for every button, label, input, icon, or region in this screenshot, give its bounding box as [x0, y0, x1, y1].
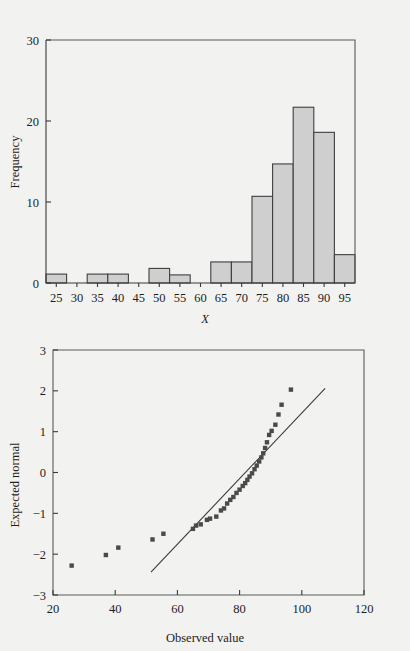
qq-data-point	[276, 412, 280, 416]
qq-data-point	[255, 463, 259, 467]
qq-data-point	[150, 537, 154, 541]
qq-data-point	[208, 516, 212, 520]
qq-y-tick-label: 0	[40, 466, 46, 480]
histogram-bar	[231, 262, 252, 283]
qq-y-tick-label: −3	[33, 589, 46, 603]
histogram-x-tick-label: 25	[50, 291, 63, 305]
qq-data-point	[289, 387, 293, 391]
qq-y-tick-label: −1	[33, 507, 46, 521]
qq-data-point	[104, 553, 108, 557]
qq-data-point	[116, 545, 120, 549]
qq-data-point	[161, 532, 165, 536]
qq-data-point	[263, 446, 267, 450]
histogram-y-tick-label: 0	[33, 277, 39, 291]
histogram-bar	[334, 255, 355, 283]
qq-data-point	[214, 514, 218, 518]
histogram-bar	[314, 132, 335, 283]
histogram-x-tick-label: 35	[91, 291, 104, 305]
histogram-x-tick-label: 40	[112, 291, 125, 305]
histogram-bar	[293, 107, 314, 283]
histogram-x-tick-label: 85	[297, 291, 310, 305]
qq-x-tick-label: 40	[109, 602, 122, 616]
qq-data-point	[259, 455, 263, 459]
histogram-bar	[108, 274, 129, 283]
qq-data-point	[257, 459, 261, 463]
histogram-y-axis-title: Frequency	[8, 135, 22, 189]
qq-x-tick-label: 100	[292, 602, 311, 616]
qq-reference-line-segment	[151, 388, 325, 572]
histogram-x-tick-label: 30	[71, 291, 84, 305]
histogram-x-tick-label: 95	[338, 291, 351, 305]
histogram-x-tick-label: 50	[153, 291, 166, 305]
qq-data-point	[231, 495, 235, 499]
histogram-bar	[46, 274, 67, 283]
qq-y-tick-label: −2	[33, 548, 46, 562]
histogram-bar	[170, 275, 191, 283]
qq-data-point	[269, 429, 273, 433]
histogram-bar	[87, 274, 108, 283]
histogram-x-tick-label: 55	[174, 291, 187, 305]
qq-y-tick-label: 2	[40, 384, 46, 398]
qq-reference-line	[151, 388, 325, 572]
qq-x-tick-label: 20	[47, 602, 60, 616]
qq-x-tick-label: 120	[355, 602, 374, 616]
qq-data-point	[273, 423, 277, 427]
qq-data-point	[267, 433, 271, 437]
qq-data-point	[261, 451, 265, 455]
qq-y-axis-title: Expected normal	[8, 442, 22, 528]
histogram-y-tick-label: 10	[27, 196, 40, 210]
histogram-x-tick-label: 75	[256, 291, 269, 305]
qq-x-tick-label: 80	[233, 602, 246, 616]
qq-data-point	[250, 471, 254, 475]
qq-data-point	[279, 403, 283, 407]
histogram-x-tick-label: 45	[132, 291, 145, 305]
histogram-y-tick-label: 20	[27, 115, 40, 129]
histogram-x-tick-label: 65	[215, 291, 228, 305]
qq-plot-axes	[53, 350, 364, 595]
qq-y-tick-label: 1	[40, 425, 46, 439]
histogram-bars	[46, 107, 355, 283]
qq-data-point	[222, 506, 226, 510]
qq-x-axis-title: Observed value	[166, 631, 245, 645]
figure-page: 2530354045505560657075808590950102030 X …	[0, 0, 410, 651]
qq-tick-labels: 20406080100120−3−2−10123	[33, 344, 374, 617]
histogram-x-tick-label: 70	[235, 291, 248, 305]
qq-plot-svg: 20406080100120−3−2−10123 Observed value …	[0, 330, 410, 651]
histogram-x-tick-label: 60	[194, 291, 207, 305]
histogram-bar	[273, 164, 294, 283]
histogram-bar	[149, 268, 170, 283]
qq-plot-frame	[53, 350, 364, 595]
qq-data-point	[265, 440, 269, 444]
qq-data-point	[69, 563, 73, 567]
histogram-bar	[211, 262, 232, 283]
qq-x-tick-label: 60	[171, 602, 184, 616]
histogram-y-tick-label: 30	[27, 34, 40, 48]
qq-data-point	[199, 522, 203, 526]
histogram-x-tick-label: 90	[318, 291, 331, 305]
histogram-svg: 2530354045505560657075808590950102030 X …	[0, 0, 410, 330]
histogram-x-tick-label: 80	[277, 291, 290, 305]
histogram-bar	[252, 196, 273, 283]
qq-data-point	[194, 523, 198, 527]
histogram-figure: 2530354045505560657075808590950102030 X …	[0, 0, 410, 330]
qq-y-tick-label: 3	[40, 344, 46, 358]
histogram-x-axis-title: X	[200, 312, 210, 326]
qq-plot-figure: 20406080100120−3−2−10123 Observed value …	[0, 330, 410, 651]
